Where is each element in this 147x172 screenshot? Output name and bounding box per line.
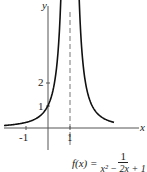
y-tick-label: 2 — [38, 76, 44, 88]
numerator: 1 — [118, 151, 128, 163]
x-tick-label: -1 — [19, 131, 28, 143]
y-tick-label: 1 — [38, 100, 44, 112]
function-label: f(x) = — [72, 157, 97, 169]
x-tick-label: 1 — [67, 131, 73, 143]
curve-left-branch — [4, 0, 62, 126]
function-formula: f(x) = 1 x² − 2x + 1 — [72, 151, 146, 172]
denominator: x² − 2x + 1 — [100, 163, 145, 172]
x-axis-label: x — [139, 121, 145, 133]
fraction: 1 x² − 2x + 1 — [100, 151, 145, 172]
y-axis-label: y — [41, 0, 47, 11]
chart-canvas: y x -1 1 1 2 — [0, 0, 147, 172]
curve-right-branch — [78, 0, 114, 122]
